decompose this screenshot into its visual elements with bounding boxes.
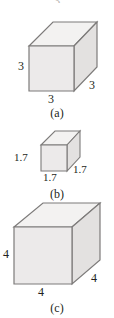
cube-b-label-right: 1.7 xyxy=(73,164,87,175)
cube-b-label-left: 1.7 xyxy=(14,152,28,163)
cube-a-front-face xyxy=(29,46,74,91)
clipped-top-glyph: 3 xyxy=(0,0,114,3)
cube-a-label-bottom: 3 xyxy=(48,93,54,105)
cube-panel-a: 3 3 3 (a) xyxy=(0,10,114,116)
cube-a-label-right: 3 xyxy=(89,79,95,91)
cube-a-drawing xyxy=(0,10,114,100)
cube-c-caption: (c) xyxy=(0,302,114,314)
cube-b-front-face xyxy=(41,145,67,171)
cube-c-label-right: 4 xyxy=(91,272,97,284)
figure-root: 3 3 3 3 (a) 1.7 1.7 1.7 (b) xyxy=(0,0,114,318)
cube-panel-c: 4 4 4 (c) xyxy=(0,198,114,318)
cube-c-front-face xyxy=(14,227,72,284)
cube-a-label-left: 3 xyxy=(18,60,24,72)
cube-b-label-bottom: 1.7 xyxy=(43,172,57,183)
cube-c-label-left: 4 xyxy=(3,248,9,260)
cube-a-caption: (a) xyxy=(0,107,114,119)
cube-c-label-bottom: 4 xyxy=(38,286,44,298)
cube-panel-b: 1.7 1.7 1.7 (b) xyxy=(0,126,114,200)
